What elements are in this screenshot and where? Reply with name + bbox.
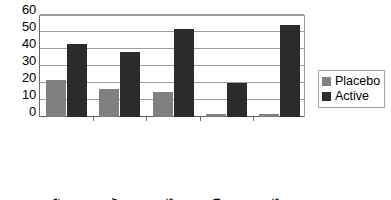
- x-axis-category-label: Fine Lines: [162, 198, 176, 200]
- x-axis-category-labels: OverallAppearanceLaxityFine LinesMottled…: [39, 122, 305, 200]
- y-axis-tick-label: 0: [2, 105, 36, 118]
- bar-active-1: [120, 52, 140, 117]
- active-swatch: [322, 92, 331, 101]
- legend-item-active[interactable]: Active: [322, 89, 380, 104]
- y-axis-tick-labels: 0102030405060: [0, 9, 36, 123]
- x-axis-category-label-line: Wrinkles: [268, 198, 282, 200]
- x-axis-category-label-line: Fine Lines: [162, 198, 176, 200]
- x-axis-tick: [146, 117, 147, 121]
- bar-placebo-0: [46, 80, 66, 117]
- x-axis-category-label: Wrinkles: [268, 198, 282, 200]
- bar-placebo-2: [153, 92, 173, 117]
- y-axis-tick-label: 60: [2, 3, 36, 16]
- x-axis-tick: [253, 117, 254, 121]
- y-axis-tick-label: 10: [2, 88, 36, 101]
- bar-placebo-3: [206, 114, 226, 117]
- gridline: [40, 31, 304, 32]
- x-axis-category-label-line: Appearance: [49, 198, 63, 200]
- bar-active-4: [280, 25, 300, 117]
- bar-placebo-4: [259, 114, 279, 117]
- x-axis-category-label-line: Laxity: [108, 198, 122, 200]
- bar-active-3: [227, 83, 247, 117]
- x-axis-tick: [200, 117, 201, 121]
- legend-label: Placebo: [335, 75, 380, 88]
- legend-item-placebo[interactable]: Placebo: [322, 74, 380, 89]
- x-axis-category-label: Laxity: [108, 198, 122, 200]
- bar-active-0: [67, 44, 87, 117]
- chart-legend: PlaceboActive: [318, 70, 385, 108]
- x-axis-category-label: MottledPigmentation: [209, 198, 223, 200]
- y-axis-tick-label: 20: [2, 71, 36, 84]
- bar-active-2: [174, 29, 194, 117]
- legend-label: Active: [335, 90, 369, 103]
- x-axis-category-label: OverallAppearance: [49, 198, 63, 200]
- x-axis-category-label-line: Pigmentation: [209, 198, 223, 200]
- bar-placebo-1: [99, 89, 119, 117]
- y-axis-tick-label: 40: [2, 37, 36, 50]
- x-axis-tick: [93, 117, 94, 121]
- y-axis-tick-label: 30: [2, 54, 36, 67]
- plot-area: [39, 15, 305, 117]
- gridline: [40, 14, 304, 15]
- y-axis-tick-label: 50: [2, 20, 36, 33]
- bar-chart: 0102030405060 OverallAppearanceLaxityFin…: [0, 0, 391, 200]
- placebo-swatch: [322, 77, 331, 86]
